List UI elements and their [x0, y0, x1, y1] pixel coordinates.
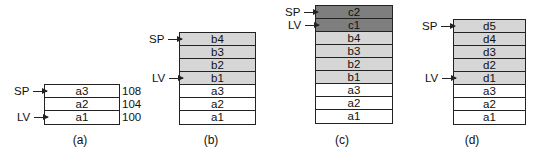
- cell-b2: b2: [316, 58, 392, 71]
- sp-pointer-a: SP: [14, 85, 47, 97]
- cell-b2: b2: [180, 59, 255, 72]
- cell-a2: a2: [45, 98, 119, 111]
- cell-a2: a2: [316, 97, 392, 110]
- arrow-right-icon: [34, 117, 48, 118]
- address-108: 108: [122, 85, 141, 97]
- caption-a: (a): [73, 133, 88, 147]
- cell-d2: d2: [454, 59, 525, 72]
- lv-label: LV: [152, 72, 165, 84]
- stack-d: d5 d4 d3 d2 d1 a3 a2 a1: [453, 19, 526, 125]
- cell-a1: a1: [316, 110, 392, 123]
- arrow-right-icon: [305, 25, 319, 26]
- sp-label: SP: [422, 20, 437, 32]
- sp-pointer-c: SP: [285, 6, 318, 18]
- address-104: 104: [122, 98, 141, 110]
- lv-label: LV: [425, 72, 438, 84]
- sp-label: SP: [14, 85, 29, 97]
- cell-c1: c1: [316, 19, 392, 32]
- sp-pointer-b: SP: [149, 33, 182, 45]
- stack-a: a3 a2 a1: [44, 84, 120, 125]
- cell-d5: d5: [454, 20, 525, 33]
- cell-b3: b3: [316, 45, 392, 58]
- cell-a1: a1: [180, 111, 255, 124]
- lv-pointer-a: LV: [17, 111, 48, 123]
- arrow-right-icon: [304, 12, 318, 13]
- lv-pointer-b: LV: [152, 72, 183, 84]
- sp-pointer-d: SP: [422, 20, 455, 32]
- arrow-right-icon: [442, 78, 456, 79]
- arrow-right-icon: [169, 78, 183, 79]
- cell-a1: a1: [45, 111, 119, 124]
- caption-c: (c): [335, 133, 349, 147]
- arrow-right-icon: [168, 39, 182, 40]
- cell-a3: a3: [454, 85, 525, 98]
- stack-c: c2 c1 b4 b3 b2 b1 a3 a2 a1: [315, 5, 393, 124]
- caption-b: (b): [204, 133, 219, 147]
- cell-b4: b4: [180, 33, 255, 46]
- cell-c2: c2: [316, 6, 392, 19]
- sp-label: SP: [149, 33, 164, 45]
- stack-b: b4 b3 b2 b1 a3 a2 a1: [179, 32, 256, 125]
- cell-a2: a2: [180, 98, 255, 111]
- cell-b3: b3: [180, 46, 255, 59]
- lv-label: LV: [288, 19, 301, 31]
- cell-d1: d1: [454, 72, 525, 85]
- address-100: 100: [122, 111, 141, 123]
- cell-b1: b1: [316, 71, 392, 84]
- cell-a3: a3: [180, 85, 255, 98]
- lv-pointer-c: LV: [288, 19, 319, 31]
- cell-d3: d3: [454, 46, 525, 59]
- lv-pointer-d: LV: [425, 72, 456, 84]
- cell-d4: d4: [454, 33, 525, 46]
- sp-label: SP: [285, 6, 300, 18]
- lv-label: LV: [17, 111, 30, 123]
- cell-b4: b4: [316, 32, 392, 45]
- arrow-right-icon: [33, 91, 47, 92]
- cell-a1: a1: [454, 111, 525, 124]
- caption-d: (d): [465, 133, 480, 147]
- arrow-right-icon: [441, 26, 455, 27]
- cell-a3: a3: [45, 85, 119, 98]
- cell-a3: a3: [316, 84, 392, 97]
- cell-b1: b1: [180, 72, 255, 85]
- cell-a2: a2: [454, 98, 525, 111]
